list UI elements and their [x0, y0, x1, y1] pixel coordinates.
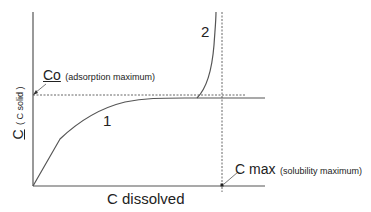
curve-1-label: 1 — [103, 112, 111, 129]
co-note: (adsorption maximum) — [65, 72, 155, 82]
curve-1 — [33, 98, 265, 186]
curve-2-label: 2 — [201, 23, 209, 40]
diagram-canvas — [0, 0, 371, 212]
x-axis-label: C dissolved — [107, 190, 185, 207]
y-axis-label: C ( C solid ) — [9, 73, 27, 153]
cmax-point-marker-icon — [221, 184, 224, 187]
co-label-group: Co (adsorption maximum) — [43, 66, 155, 84]
co-label: Co — [43, 67, 61, 83]
cmax-label-group: C max (solubility maximum) — [235, 160, 362, 178]
y-axis-label-sub: ( C solid ) — [15, 86, 25, 125]
cmax-label: C max — [235, 161, 275, 177]
y-axis-label-main: C — [10, 129, 26, 139]
cmax-note: (solubility maximum) — [280, 166, 362, 176]
